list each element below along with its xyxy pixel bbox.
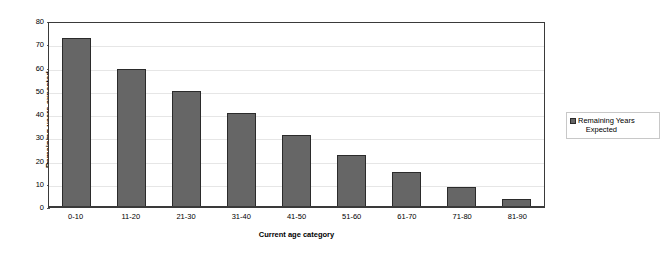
y-axis-ticks: 01020304050607080 [24, 22, 44, 208]
legend-swatch-icon [570, 118, 576, 124]
x-axis-baseline [49, 206, 544, 208]
x-axis-labels: 0-1011-2021-3031-4041-5051-6061-7071-808… [48, 212, 545, 222]
y-tick-label: 50 [24, 88, 44, 96]
x-tick-label: 71-80 [435, 212, 490, 222]
y-tick-mark [47, 208, 50, 209]
chart-legend: Remaining Years Expected [566, 112, 660, 139]
bar-slot [159, 23, 214, 207]
bar[interactable] [62, 38, 91, 207]
legend-label-line2: Expected [578, 125, 635, 134]
bar-slot [269, 23, 324, 207]
y-tick-label: 30 [24, 134, 44, 142]
x-tick-label: 21-30 [158, 212, 213, 222]
bar-chart: Remaining years expected 010203040506070… [0, 0, 671, 253]
bar-slot [379, 23, 434, 207]
bar[interactable] [227, 113, 256, 207]
y-tick-label: 70 [24, 41, 44, 49]
bar-slot [49, 23, 104, 207]
bar-slot [214, 23, 269, 207]
x-tick-label: 11-20 [103, 212, 158, 222]
x-tick-label: 81-90 [490, 212, 545, 222]
bar-slot [104, 23, 159, 207]
bar[interactable] [337, 155, 366, 207]
x-axis-title: Current age category [48, 230, 545, 239]
bar[interactable] [447, 187, 476, 207]
bar-slot [434, 23, 489, 207]
bar[interactable] [282, 135, 311, 207]
bar-slot [489, 23, 544, 207]
bar[interactable] [172, 91, 201, 207]
x-tick-label: 61-70 [379, 212, 434, 222]
y-tick-label: 60 [24, 65, 44, 73]
legend-label-line1: Remaining Years [578, 116, 635, 125]
plot-area [48, 22, 545, 208]
bar[interactable] [117, 69, 146, 207]
x-tick-label: 31-40 [214, 212, 269, 222]
legend-label: Remaining Years Expected [578, 116, 635, 134]
x-tick-label: 51-60 [324, 212, 379, 222]
bar[interactable] [392, 172, 421, 207]
legend-item[interactable]: Remaining Years Expected [570, 116, 655, 134]
bars-layer [49, 23, 544, 207]
y-tick-label: 0 [24, 204, 44, 212]
y-tick-label: 80 [24, 18, 44, 26]
x-tick-label: 0-10 [48, 212, 103, 222]
y-tick-label: 20 [24, 158, 44, 166]
bar-slot [324, 23, 379, 207]
x-tick-label: 41-50 [269, 212, 324, 222]
y-tick-label: 40 [24, 111, 44, 119]
y-tick-label: 10 [24, 181, 44, 189]
